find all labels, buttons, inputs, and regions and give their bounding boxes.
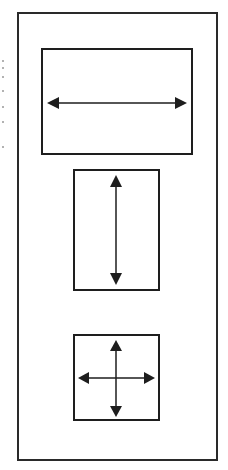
scan-artifact <box>2 60 4 62</box>
scan-artifact <box>2 146 4 148</box>
scan-artifact <box>2 121 4 123</box>
scan-artifact <box>2 67 4 69</box>
up-down-arrow-icon <box>110 175 122 285</box>
left-right-arrow-icon <box>47 97 187 109</box>
scan-artifact <box>2 76 4 78</box>
scan-artifact <box>2 106 4 108</box>
scan-artifact <box>2 90 4 92</box>
four-way-arrow-icon <box>78 340 155 417</box>
arrows-layer <box>0 0 228 470</box>
